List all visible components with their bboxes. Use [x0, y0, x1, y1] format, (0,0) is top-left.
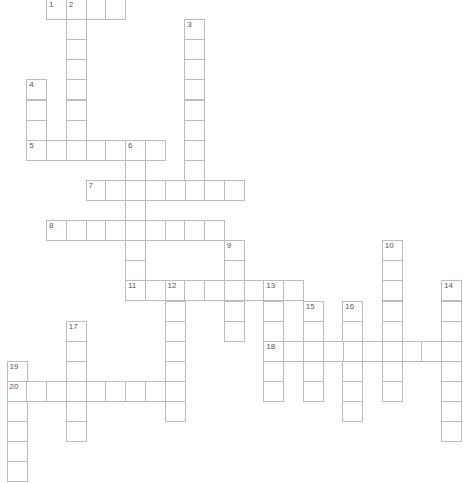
crossword-cell[interactable] [125, 180, 146, 201]
crossword-cell[interactable]: 4 [26, 79, 47, 100]
crossword-cell[interactable] [105, 0, 126, 20]
crossword-cell[interactable] [184, 280, 205, 301]
crossword-cell[interactable] [165, 220, 186, 241]
crossword-cell[interactable]: 10 [382, 240, 403, 261]
crossword-cell[interactable] [145, 381, 166, 402]
crossword-cell[interactable] [66, 361, 87, 382]
crossword-cell[interactable] [66, 140, 87, 161]
crossword-cell[interactable] [382, 301, 403, 322]
crossword-cell[interactable]: 14 [441, 280, 462, 301]
crossword-cell[interactable] [184, 39, 205, 60]
crossword-cell[interactable] [165, 180, 186, 201]
crossword-cell[interactable] [165, 361, 186, 382]
crossword-cell[interactable]: 9 [224, 240, 245, 261]
crossword-cell[interactable] [263, 301, 284, 322]
crossword-cell[interactable] [263, 381, 284, 402]
crossword-cell[interactable] [125, 220, 146, 241]
crossword-cell[interactable] [26, 381, 47, 402]
crossword-cell[interactable] [303, 361, 324, 382]
crossword-cell[interactable] [283, 341, 304, 362]
crossword-cell[interactable] [362, 341, 383, 362]
crossword-cell[interactable] [323, 341, 344, 362]
crossword-cell[interactable] [224, 180, 245, 201]
crossword-cell[interactable]: 19 [7, 361, 28, 382]
crossword-cell[interactable] [165, 301, 186, 322]
crossword-cell[interactable] [184, 160, 205, 181]
crossword-cell[interactable] [125, 200, 146, 221]
crossword-cell[interactable] [66, 39, 87, 60]
crossword-cell[interactable] [441, 361, 462, 382]
crossword-cell[interactable] [105, 381, 126, 402]
crossword-cell[interactable] [86, 0, 107, 20]
crossword-cell[interactable] [441, 421, 462, 442]
crossword-cell[interactable] [342, 361, 363, 382]
crossword-cell[interactable] [382, 321, 403, 342]
crossword-cell[interactable] [263, 361, 284, 382]
crossword-cell[interactable] [66, 421, 87, 442]
crossword-cell[interactable]: 16 [342, 301, 363, 322]
crossword-cell[interactable] [66, 19, 87, 40]
crossword-cell[interactable] [145, 280, 166, 301]
crossword-cell[interactable] [204, 180, 225, 201]
crossword-cell[interactable] [66, 401, 87, 422]
crossword-cell[interactable] [66, 220, 87, 241]
crossword-cell[interactable] [46, 140, 67, 161]
crossword-cell[interactable] [145, 220, 166, 241]
crossword-cell[interactable]: 3 [184, 19, 205, 40]
crossword-cell[interactable] [224, 301, 245, 322]
crossword-cell[interactable] [184, 220, 205, 241]
crossword-cell[interactable] [382, 361, 403, 382]
crossword-cell[interactable] [342, 381, 363, 402]
crossword-cell[interactable] [66, 100, 87, 121]
crossword-cell[interactable] [263, 321, 284, 342]
crossword-cell[interactable] [342, 341, 363, 362]
crossword-cell[interactable] [46, 381, 67, 402]
crossword-cell[interactable] [441, 301, 462, 322]
crossword-cell[interactable] [303, 321, 324, 342]
crossword-cell[interactable] [145, 140, 166, 161]
crossword-cell[interactable] [105, 140, 126, 161]
crossword-cell[interactable] [7, 441, 28, 462]
crossword-cell[interactable] [165, 381, 186, 402]
crossword-cell[interactable] [342, 321, 363, 342]
crossword-cell[interactable] [303, 341, 324, 362]
crossword-cell[interactable] [7, 401, 28, 422]
crossword-cell[interactable]: 2 [66, 0, 87, 20]
crossword-cell[interactable] [382, 381, 403, 402]
crossword-cell[interactable] [7, 461, 28, 482]
crossword-cell[interactable] [224, 280, 245, 301]
crossword-cell[interactable] [342, 401, 363, 422]
crossword-cell[interactable]: 8 [46, 220, 67, 241]
crossword-cell[interactable]: 20 [7, 381, 28, 402]
crossword-cell[interactable] [184, 100, 205, 121]
crossword-cell[interactable] [105, 220, 126, 241]
crossword-cell[interactable] [441, 401, 462, 422]
crossword-cell[interactable]: 6 [125, 140, 146, 161]
crossword-cell[interactable] [125, 240, 146, 261]
crossword-cell[interactable] [184, 79, 205, 100]
crossword-cell[interactable] [125, 160, 146, 181]
crossword-cell[interactable] [66, 59, 87, 80]
crossword-cell[interactable]: 17 [66, 321, 87, 342]
crossword-cell[interactable] [26, 120, 47, 141]
crossword-cell[interactable] [66, 120, 87, 141]
crossword-cell[interactable] [441, 341, 462, 362]
crossword-cell[interactable]: 12 [165, 280, 186, 301]
crossword-cell[interactable] [165, 321, 186, 342]
crossword-cell[interactable] [224, 260, 245, 281]
crossword-cell[interactable] [165, 401, 186, 422]
crossword-cell[interactable] [303, 381, 324, 402]
crossword-cell[interactable] [421, 341, 442, 362]
crossword-cell[interactable] [204, 280, 225, 301]
crossword-cell[interactable] [86, 140, 107, 161]
crossword-cell[interactable] [283, 280, 304, 301]
crossword-cell[interactable] [382, 341, 403, 362]
crossword-cell[interactable] [204, 220, 225, 241]
crossword-cell[interactable]: 18 [263, 341, 284, 362]
crossword-cell[interactable] [165, 341, 186, 362]
crossword-cell[interactable] [26, 100, 47, 121]
crossword-cell[interactable]: 13 [263, 280, 284, 301]
crossword-cell[interactable]: 15 [303, 301, 324, 322]
crossword-cell[interactable] [184, 120, 205, 141]
crossword-cell[interactable]: 7 [86, 180, 107, 201]
